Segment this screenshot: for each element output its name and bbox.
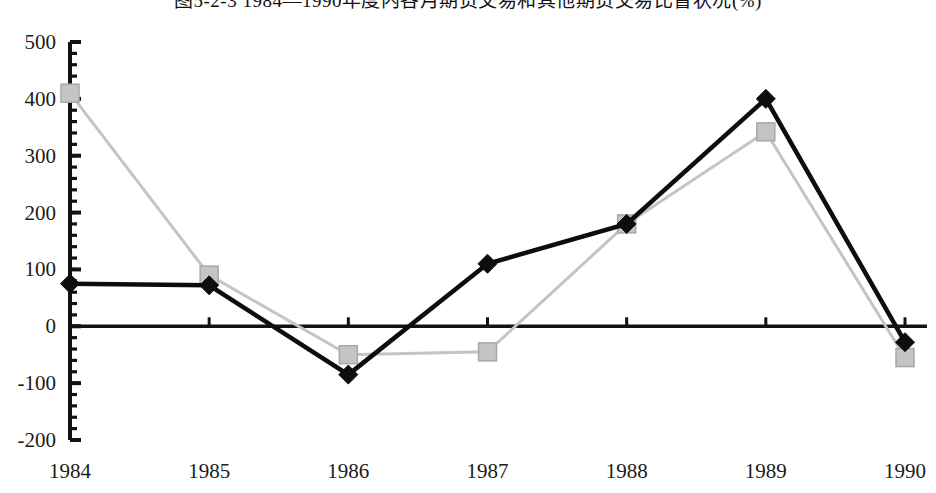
x-axis-tick-label: 1985 [188,459,230,483]
data-series-layer [61,84,915,384]
y-axis-tick-label: 300 [25,144,57,168]
x-axis-tick-label: 1989 [745,459,787,483]
y-axis-tick-label: 200 [25,201,57,225]
chart-figure: 图5-2-3 1984—1990年度内各月期货交易和其他期货交易比督状况(%) … [0,0,936,493]
line-chart-plot: 5004003002001000-100-200 198419851986198… [0,0,936,493]
x-axis-tick-label: 1988 [606,459,648,483]
y-axis-tick-label: -200 [18,428,57,452]
x-axis-tick-label: 1984 [49,459,92,483]
x-axis-tick-labels: 1984198519861987198819891990 [49,459,926,483]
y-axis-tick-label: 400 [25,87,57,111]
data-point-marker [757,123,775,141]
series-black-diamond [61,89,915,384]
y-axis-tick-label: 100 [25,257,57,281]
series-line [70,99,905,375]
data-point-marker [339,346,357,364]
data-point-marker [61,274,80,293]
y-axis-tick-label: -100 [18,371,57,395]
y-axis-tick-label: 500 [25,30,57,54]
y-axis-tick-label: 0 [46,314,57,338]
x-axis-tick-label: 1987 [467,459,509,483]
data-point-marker [479,343,497,361]
data-point-marker [61,84,79,102]
x-axis-tick-label: 1990 [884,459,926,483]
x-axis-tick-label: 1986 [327,459,369,483]
y-axis-tick-labels: 5004003002001000-100-200 [18,30,57,452]
